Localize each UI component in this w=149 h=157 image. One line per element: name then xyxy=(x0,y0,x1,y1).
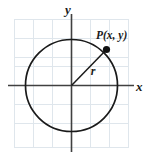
point-p-label: P(x, y) xyxy=(96,29,127,42)
figure-canvas: y x r P(x, y) xyxy=(0,0,149,157)
circle-radius-figure: y x r P(x, y) xyxy=(0,0,149,157)
point-p-dot xyxy=(103,46,110,53)
radius-label: r xyxy=(91,64,96,78)
y-axis-label: y xyxy=(63,2,71,17)
x-axis-label: x xyxy=(135,79,143,94)
radius-segment xyxy=(72,50,107,86)
